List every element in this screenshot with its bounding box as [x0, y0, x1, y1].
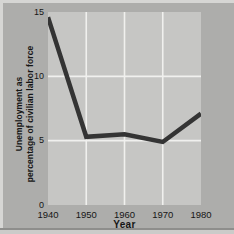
figure-edge-bottom-strip — [0, 230, 234, 234]
plot-area — [48, 12, 201, 205]
x-axis-title: Year — [48, 219, 201, 230]
x-tick-label: 1960 — [109, 210, 141, 220]
x-tick-label: 1980 — [185, 210, 217, 220]
y-tick-label: 10 — [16, 71, 44, 82]
y-tick-label: 5 — [16, 135, 44, 146]
y-axis-title: Unemployment as percentage of civilian l… — [14, 39, 36, 189]
y-axis-title-line2: percentage of civilian labor force — [25, 39, 36, 189]
x-tick-label: 1950 — [70, 210, 102, 220]
figure-edge-top — [0, 0, 234, 3]
chart-canvas — [48, 12, 201, 205]
x-tick-label: 1970 — [147, 210, 179, 220]
y-axis-title-line1: Unemployment as — [14, 39, 25, 189]
figure-edge-left — [0, 0, 3, 234]
x-tick-label: 1940 — [32, 210, 64, 220]
unemployment-line-chart-figure: Unemployment as percentage of civilian l… — [0, 0, 234, 234]
y-tick-label: 15 — [16, 7, 44, 18]
